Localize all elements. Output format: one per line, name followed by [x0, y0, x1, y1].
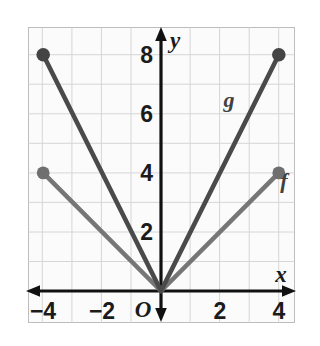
x-tick-label-4: 4: [273, 298, 286, 324]
x-tick-label-minus-4: −4: [30, 298, 56, 324]
x-axis-label: x: [274, 262, 287, 287]
y-tick-label-6: 6: [140, 101, 153, 127]
origin-label: O: [135, 297, 152, 322]
graph-figure: 8 6 4 2 −4 −2 2 4 O y x g f: [0, 0, 320, 346]
series-g-label: g: [223, 87, 235, 112]
y-tick-label-4: 4: [140, 160, 153, 186]
series-g-endpoint-right: [272, 48, 286, 62]
series-g-endpoint-left: [36, 48, 50, 62]
y-tick-label-8: 8: [140, 42, 153, 68]
x-tick-label-minus-2: −2: [89, 298, 115, 324]
coordinate-plane-chart: 8 6 4 2 −4 −2 2 4 O y x g f: [0, 0, 320, 346]
y-axis-label: y: [167, 28, 181, 53]
x-tick-label-2: 2: [214, 298, 227, 324]
series-f-endpoint-left: [37, 167, 50, 180]
y-tick-label-2: 2: [140, 219, 153, 245]
